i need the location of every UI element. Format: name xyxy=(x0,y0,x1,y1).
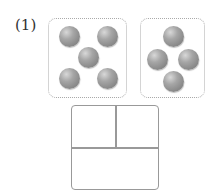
answer-cell-top-left[interactable] xyxy=(72,106,115,147)
ball-icon xyxy=(78,47,99,68)
ball-icon xyxy=(178,49,199,70)
ball-icon xyxy=(147,49,168,70)
answer-cell-top-right[interactable] xyxy=(117,106,157,147)
ball-icon xyxy=(59,26,80,47)
number-bond-box xyxy=(71,105,159,190)
problem-number: (1) xyxy=(15,16,36,34)
answer-cell-bottom[interactable] xyxy=(72,149,157,188)
ball-icon xyxy=(163,71,184,92)
ball-icon xyxy=(97,26,118,47)
ball-icon xyxy=(59,68,80,89)
ball-icon xyxy=(97,68,118,89)
ball-icon xyxy=(163,26,184,47)
